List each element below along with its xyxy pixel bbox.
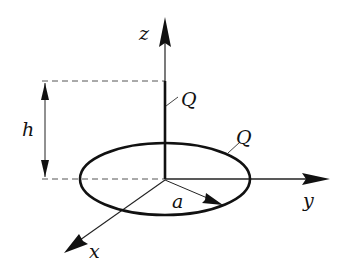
rod-charge-label: Q xyxy=(181,88,197,110)
rod-charge-leader xyxy=(166,97,178,106)
y-axis xyxy=(165,173,330,185)
z-axis-label: z xyxy=(138,22,150,44)
x-axis xyxy=(64,180,165,253)
x-axis-label: x xyxy=(89,240,100,262)
ring-charge-label: Q xyxy=(236,126,252,148)
radius-label: a xyxy=(172,190,183,212)
y-axis-label: y xyxy=(302,189,314,211)
height-dimension xyxy=(41,83,49,177)
diagram-canvas: h y x z Q Q a xyxy=(0,0,345,274)
height-label: h xyxy=(22,118,34,140)
